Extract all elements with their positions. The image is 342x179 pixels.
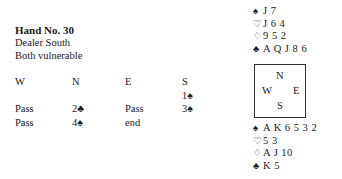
north-diamonds: 9 5 2 (263, 30, 287, 41)
compass-east: E (293, 85, 299, 96)
bid: 1♠ (182, 89, 193, 103)
north-spades: J 7 (263, 5, 276, 16)
south-hand: ♠A K 6 5 3 2 ♡5 3 ♢A J 10 ♣K 5 (253, 122, 317, 173)
south-spades: A K 6 5 3 2 (263, 122, 317, 133)
club-icon: ♣ (253, 43, 263, 56)
bid: 4♠ (72, 116, 84, 130)
compass-west: W (262, 85, 272, 96)
north-hand: ♠J 7 ♡J 6 4 ♢9 5 2 ♣A Q J 8 6 (253, 5, 307, 56)
diamond-icon: ♢ (253, 147, 263, 160)
auction-column-north: N 2♣ 4♠ (72, 75, 84, 129)
auction-column-west: W Pass Pass (15, 75, 34, 129)
auction-header-west: W (15, 75, 34, 89)
south-hearts: 5 3 (263, 135, 278, 146)
spade-icon: ♠ (253, 5, 263, 18)
vulnerability-label: Both vulnerable (15, 50, 82, 61)
bid: end (125, 116, 144, 130)
auction-header-north: N (72, 75, 84, 89)
south-clubs: K 5 (263, 160, 280, 171)
heart-icon: ♡ (253, 135, 263, 148)
hand-title: Hand No. 30 (15, 24, 74, 36)
compass-south: S (277, 100, 283, 111)
dealer-label: Dealer South (15, 37, 70, 48)
auction-column-south: S 1♠ 3♠ (182, 75, 193, 129)
heart-icon: ♡ (253, 18, 263, 31)
bid (182, 116, 193, 130)
bid (15, 89, 34, 103)
bid: Pass (125, 102, 144, 116)
compass-north: N (276, 70, 284, 81)
north-clubs: A Q J 8 6 (263, 43, 307, 54)
diamond-icon: ♢ (253, 30, 263, 43)
compass-box: N W E S (254, 64, 306, 118)
bid (72, 89, 84, 103)
bid: 2♣ (72, 102, 84, 116)
bid: 3♠ (182, 102, 193, 116)
club-icon: ♣ (253, 160, 263, 173)
auction-header-south: S (182, 75, 193, 89)
bid: Pass (15, 102, 34, 116)
auction-column-east: E Pass end (125, 75, 144, 129)
bid: Pass (15, 116, 34, 130)
bid (125, 89, 144, 103)
spade-icon: ♠ (253, 122, 263, 135)
south-diamonds: A J 10 (263, 147, 293, 158)
north-hearts: J 6 4 (263, 18, 285, 29)
auction-header-east: E (125, 75, 144, 89)
